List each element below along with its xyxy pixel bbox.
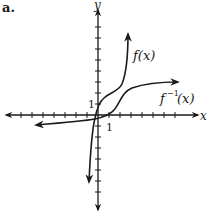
y-axis: [95, 10, 101, 210]
y-tick-label-1: 1: [88, 98, 95, 111]
x-axis-label: x: [200, 109, 207, 123]
x-tick-label-1: 1: [106, 121, 113, 134]
function-inverse-graph: a. x: [0, 0, 209, 217]
curve-f-inverse-label: f −1 (x): [159, 89, 194, 106]
curve-f-inverse: [36, 82, 178, 125]
svg-text:f: f: [159, 91, 167, 106]
curve-f-label: f(x): [132, 48, 155, 63]
y-axis-label: y: [93, 0, 101, 12]
figure-label: a.: [2, 0, 15, 15]
svg-text:(x): (x): [177, 91, 194, 106]
